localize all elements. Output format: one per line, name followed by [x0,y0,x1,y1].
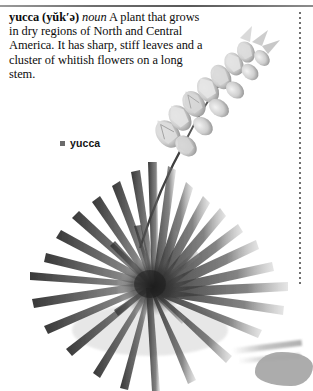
entry-part-of-speech: noun [82,10,107,24]
dictionary-entry: yucca (yŭk′ə) noun A plant that grows in… [9,10,209,81]
entry-headword: yucca [9,10,39,24]
column-dotted-divider [299,12,301,286]
entry-pronunciation: (yŭk′ə) [42,10,79,24]
top-horizontal-rule [0,5,313,7]
ground-shadow-blob [255,352,313,386]
caption-label: yucca [70,137,100,149]
plant-ground-shadow [72,304,228,356]
flower-stalk [140,84,220,248]
rosette-core [118,256,186,316]
dictionary-page: yucca (yŭk′ə) noun A plant that grows in… [0,0,313,391]
square-bullet-icon [60,141,65,146]
illustration-caption: yucca [60,137,100,149]
